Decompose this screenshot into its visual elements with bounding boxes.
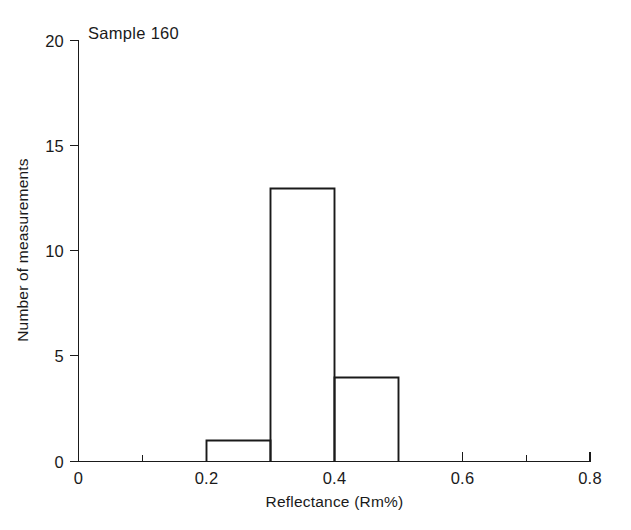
x-tick-label-0p4: 0.4 <box>323 469 347 487</box>
chart-canvas: Sample 160 20 15 10 5 0 <box>0 0 631 530</box>
histogram-figure: Sample 160 20 15 10 5 0 <box>0 0 631 530</box>
y-axis-title: Number of measurements <box>14 158 31 342</box>
x-tick-label-0: 0 <box>74 469 83 487</box>
y-tick-label-20: 20 <box>45 32 64 50</box>
y-tick-label-10: 10 <box>45 242 64 260</box>
y-tick-label-0: 0 <box>55 453 64 471</box>
histogram-bar-2 <box>335 378 399 462</box>
x-tick-label-0p6: 0.6 <box>451 469 475 487</box>
chart-title: Sample 160 <box>88 24 179 42</box>
x-axis-tick-labels: 0 0.2 0.4 0.6 0.8 <box>74 469 602 487</box>
y-tick-label-15: 15 <box>45 137 64 155</box>
y-axis-tick-labels: 20 15 10 5 0 <box>45 32 64 471</box>
histogram-bar-1 <box>271 189 335 462</box>
x-axis-title: Reflectance (Rm%) <box>266 493 404 510</box>
x-tick-label-0p8: 0.8 <box>578 469 602 487</box>
x-tick-label-0p2: 0.2 <box>195 469 219 487</box>
histogram-bars <box>207 189 399 462</box>
y-axis-ticks <box>70 41 79 462</box>
histogram-bar-0 <box>207 441 271 462</box>
y-tick-label-5: 5 <box>55 347 64 365</box>
